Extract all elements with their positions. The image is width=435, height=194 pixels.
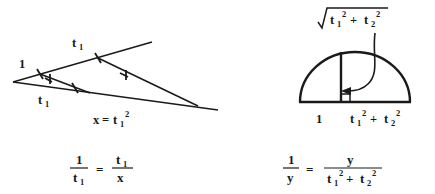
label-upper-t1-subscript: 1 <box>79 42 83 52</box>
right-eq-denominator-t1: t <box>327 171 332 186</box>
top-label-plus: + <box>350 13 357 27</box>
label-lower-t1-subscript: 1 <box>45 99 49 109</box>
label-base-t-subscript: 1 <box>120 119 124 129</box>
label-base-t: t <box>113 113 118 127</box>
right-eq-denominator-plus: + <box>346 171 353 186</box>
geometry-figure: 1 t 1 t 1 x = t 1 2 t 1 2 + t 2 2 <box>0 0 435 194</box>
left-equation: 1 t 1 = t 1 x <box>70 152 133 187</box>
label-base-equals: = <box>102 113 109 127</box>
outer-transversal-line <box>98 58 198 106</box>
left-eq-denominator-t: t <box>73 170 78 185</box>
bottom-label-t1-subscript: 1 <box>357 118 361 128</box>
bottom-label-one: 1 <box>316 112 322 126</box>
right-eq-denominator-t2-subscript: 2 <box>367 178 371 188</box>
left-eq-equals: = <box>96 162 103 177</box>
left-eq-denominator-x: x <box>117 170 124 185</box>
left-eq-numerator-t: t <box>116 152 121 167</box>
top-label-t2: t <box>364 13 369 27</box>
right-eq-denominator-t1-subscript: 1 <box>334 178 338 188</box>
right-eq-denominator-y: y <box>287 170 294 185</box>
top-label-t1-superscript: 2 <box>342 9 346 19</box>
bottom-label-t2: t <box>384 112 389 126</box>
right-eq-equals: = <box>306 162 313 177</box>
top-label-t1: t <box>330 13 335 27</box>
top-label-t2-superscript: 2 <box>376 9 380 19</box>
label-lower-t1: t <box>38 93 43 107</box>
right-eq-denominator-t2: t <box>360 171 365 186</box>
bottom-label-t2-subscript: 2 <box>391 118 395 128</box>
right-eq-denominator-t1-superscript: 2 <box>339 168 343 178</box>
left-eq-numerator-one: 1 <box>76 152 83 167</box>
right-diagram: t 1 2 + t 2 2 1 t 1 2 + t 2 2 <box>299 8 411 128</box>
lower-ray-line <box>13 82 218 110</box>
right-equation: 1 y = y t 1 2 + t 2 2 <box>283 152 382 188</box>
top-label-t2-subscript: 2 <box>371 19 375 29</box>
top-label-t1-subscript: 1 <box>337 19 341 29</box>
label-unit-one: 1 <box>19 57 25 71</box>
left-diagram: 1 t 1 t 1 x = t 1 2 <box>13 36 218 129</box>
inner-transversal-line <box>40 74 90 93</box>
label-upper-t1: t <box>72 36 77 50</box>
left-eq-denominator-t-subscript: 1 <box>80 177 84 187</box>
right-eq-denominator-t2-superscript: 2 <box>372 168 376 178</box>
right-eq-numerator-one: 1 <box>288 152 295 167</box>
bottom-label-t1-superscript: 2 <box>362 108 366 118</box>
bottom-label-t1: t <box>350 112 355 126</box>
annotation-arrow-curve <box>348 33 375 91</box>
label-base-t-superscript: 2 <box>125 109 129 119</box>
right-eq-numerator-y: y <box>347 152 354 167</box>
bottom-label-plus: + <box>370 112 377 126</box>
semicircle-arc <box>300 52 410 102</box>
bottom-label-t2-superscript: 2 <box>396 108 400 118</box>
label-base-x: x <box>93 113 100 127</box>
